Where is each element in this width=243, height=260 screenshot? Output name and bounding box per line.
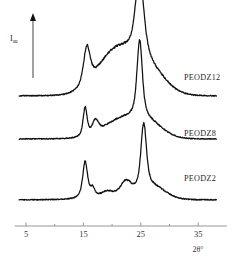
x-axis-title: 2θ°	[192, 245, 203, 254]
x-tick-label-25: 25	[137, 229, 146, 239]
xrd-figure: PEODZ12 PEODZ8 PEODZ2 Iau 5152535 2θ°	[0, 0, 243, 260]
x-tick-label-15: 15	[79, 229, 88, 239]
x-axis-group	[15, 223, 227, 227]
curve-label-peodz8: PEODZ8	[184, 129, 216, 138]
y-axis-label: Iau	[10, 34, 18, 43]
curves-group	[19, 0, 216, 200]
y-axis-group	[30, 13, 36, 78]
curve-label-peodz2: PEODZ2	[184, 174, 216, 183]
x-tick-label-35: 35	[194, 229, 203, 239]
curve-label-peodz12: PEODZ12	[184, 73, 220, 82]
y-axis-label-subscript: au	[13, 38, 18, 44]
y-axis-arrow-icon	[30, 13, 36, 21]
x-tick-label-5: 5	[24, 229, 28, 239]
curve-peodz8	[19, 40, 216, 140]
